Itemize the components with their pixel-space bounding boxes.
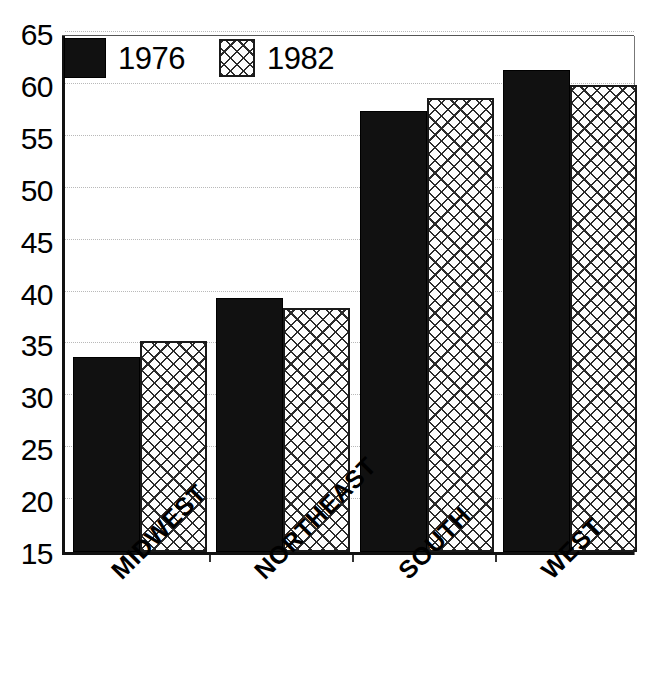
x-tick-mark-0: [209, 555, 211, 562]
y-tick-label-50: 50: [0, 176, 53, 206]
y-tick-label-55: 55: [0, 124, 53, 154]
bar-west-1976: [503, 70, 570, 552]
chart-legend: 1976 1982: [64, 36, 368, 80]
legend-swatch-1982-icon: [219, 39, 255, 77]
bar-west-1982: [570, 85, 637, 552]
y-tick-label-25: 25: [0, 435, 53, 465]
y-tick-label-65: 65: [0, 20, 53, 50]
y-tick-label-15: 15: [0, 539, 53, 569]
x-tick-mark-1: [352, 555, 354, 562]
bar-chart: 1520253035404550556065 MIDWESTNORTHEASTS…: [0, 0, 657, 682]
y-tick-label-35: 35: [0, 331, 53, 361]
legend-item-1982: 1982: [219, 39, 368, 77]
bar-south-1976: [360, 111, 427, 552]
y-tick-label-30: 30: [0, 383, 53, 413]
legend-label-1976: 1976: [118, 43, 185, 74]
bar-south-1982: [427, 98, 494, 552]
legend-swatch-1976-icon: [64, 38, 106, 78]
y-tick-label-20: 20: [0, 487, 53, 517]
y-tick-label-45: 45: [0, 228, 53, 258]
bar-northeast-1976: [216, 298, 283, 552]
legend-label-1982: 1982: [267, 43, 334, 74]
bar-midwest-1976: [73, 357, 140, 552]
y-tick-label-40: 40: [0, 280, 53, 310]
legend-item-1976: 1976: [64, 38, 219, 78]
gridline-65: [65, 31, 634, 33]
y-tick-label-60: 60: [0, 72, 53, 102]
x-tick-mark-2: [495, 555, 497, 562]
